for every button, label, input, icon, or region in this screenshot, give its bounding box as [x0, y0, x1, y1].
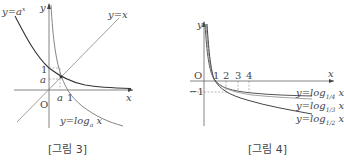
log-curve-label: y=loga x — [60, 116, 102, 128]
log-curve — [51, 5, 123, 126]
y-axis-arrow-icon — [47, 3, 51, 9]
y-axis-label: y — [40, 3, 46, 13]
curve-log-quarter — [205, 24, 312, 96]
curve-label-third: y=log1/3 x — [296, 101, 344, 113]
origin-label: O — [40, 100, 48, 110]
curve-label-half: y=log1/2 x — [296, 114, 344, 126]
identity-label: y=x — [108, 10, 128, 20]
y-tick-neg1: −1 — [189, 87, 204, 97]
figure-3-caption: [그림 3] — [48, 140, 87, 156]
figure-3: y=ax y y=x 1 a a 1 x O y=loga x [그림 3] — [0, 0, 172, 163]
curve-label-quarter: y=log1/4 x — [296, 88, 344, 100]
x-axis-label: x — [126, 93, 132, 103]
y-axis-label: y — [197, 20, 203, 30]
x-tick-2: 2 — [223, 71, 229, 81]
x-tick-4: 4 — [246, 71, 252, 81]
identity-line — [17, 18, 119, 122]
x-tick-1: 1 — [213, 71, 219, 81]
x-tick-1: 1 — [67, 93, 73, 103]
y-tick-a: a — [40, 75, 46, 85]
figure-4: y O 1 2 3 4 x −1 y=log1/4 x y=log1/3 x y… — [172, 0, 344, 163]
x-axis-label: x — [328, 69, 334, 79]
x-tick-3: 3 — [235, 71, 241, 81]
exp-curve — [15, 16, 131, 89]
figure-4-caption: [그림 4] — [248, 140, 287, 156]
x-axis-arrow-icon — [329, 79, 334, 83]
origin-label: O — [194, 71, 202, 81]
intersection-point — [60, 76, 63, 79]
figure-3-graph — [0, 0, 172, 163]
x-tick-a: a — [57, 93, 63, 103]
exp-curve-label: y=ax — [2, 6, 25, 17]
